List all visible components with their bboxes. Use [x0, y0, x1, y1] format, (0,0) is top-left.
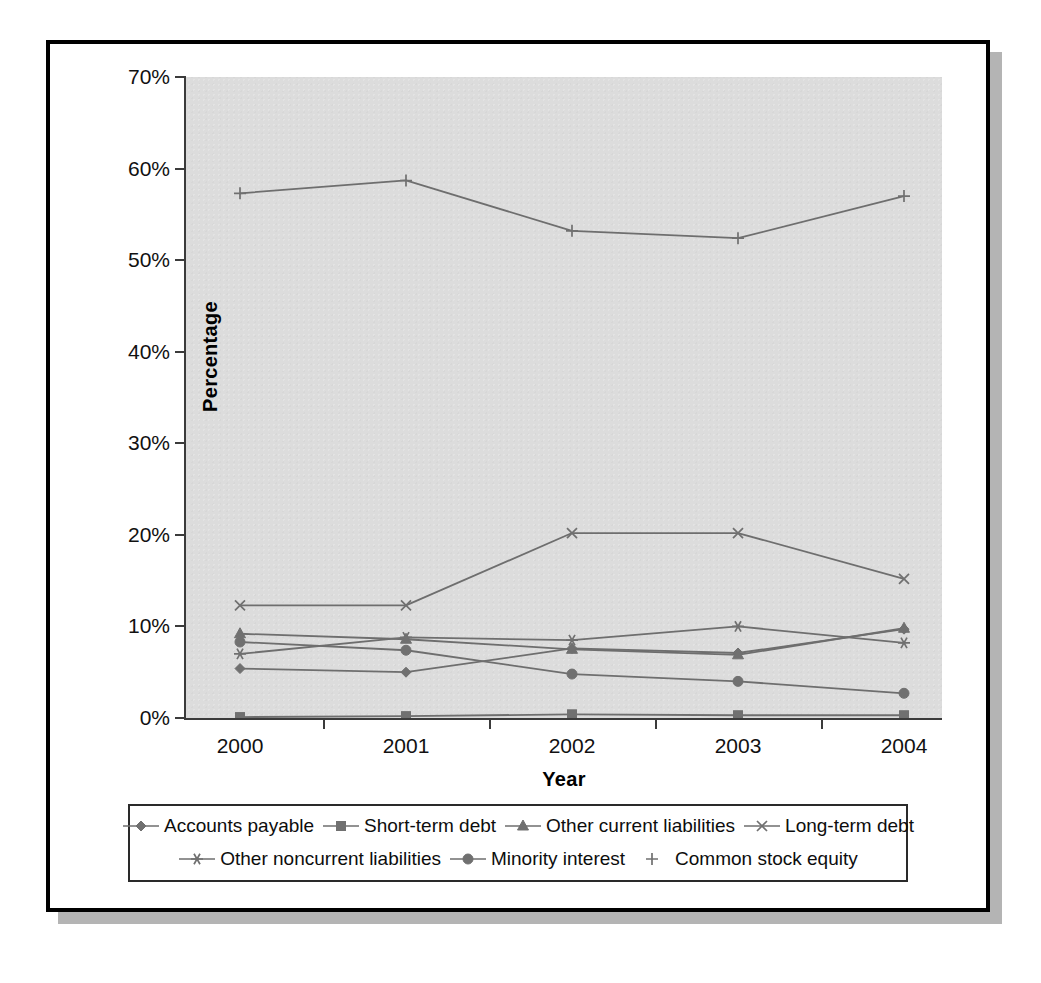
legend-item[interactable]: Long-term debt [743, 816, 914, 835]
x-axis-title: Year [186, 768, 942, 791]
data-point-square [900, 711, 909, 718]
legend-label: Other noncurrent liabilities [220, 849, 441, 868]
data-point-square [402, 712, 411, 718]
legend-marker-triangle [504, 817, 542, 835]
data-point-plus [646, 853, 658, 865]
data-point-circle [899, 688, 909, 698]
legend-row-2: Other noncurrent liabilitiesMinority int… [130, 849, 906, 868]
legend-key [633, 850, 671, 868]
plot-area: Percentage 0%10%20%30%40%50%60%70% 20002… [184, 77, 942, 720]
legend-row-1: Accounts payableShort-term debtOther cur… [130, 816, 906, 835]
y-axis-tick-label: 70% [102, 65, 186, 89]
chart-legend: Accounts payableShort-term debtOther cur… [128, 804, 908, 882]
legend-marker-circle [449, 850, 487, 868]
data-point-asterisk [191, 853, 203, 863]
y-axis-tick-label: 40% [102, 340, 186, 364]
legend-marker-square [322, 817, 360, 835]
legend-label: Short-term debt [364, 816, 496, 835]
data-point-square [236, 713, 245, 718]
data-point-circle [401, 645, 411, 655]
legend-item[interactable]: Other current liabilities [504, 816, 735, 835]
series-short-term-debt [236, 710, 909, 718]
x-axis-tick-mark [655, 718, 657, 729]
y-axis-tick-mark [175, 534, 186, 536]
legend-item[interactable]: Short-term debt [322, 816, 496, 835]
data-point-plus [400, 174, 412, 186]
legend-key [322, 817, 360, 835]
x-axis-tick-mark [821, 718, 823, 729]
data-point-diamond [401, 667, 411, 677]
series-common-stock-equity [234, 174, 910, 244]
y-axis-tick-label: 50% [102, 248, 186, 272]
figure-frame: Percentage 0%10%20%30%40%50%60%70% 20002… [46, 40, 990, 912]
legend-label: Accounts payable [164, 816, 314, 835]
data-point-plus [234, 187, 246, 199]
y-axis-tick-label: 10% [102, 614, 186, 638]
data-point-circle [463, 854, 473, 864]
data-point-x [899, 574, 909, 584]
data-point-circle [733, 676, 743, 686]
y-axis-tick-mark [175, 442, 186, 444]
data-point-plus [898, 190, 910, 202]
x-axis-tick-label: 2003 [683, 734, 793, 758]
series-canvas [186, 77, 942, 718]
data-point-diamond [235, 664, 245, 674]
y-axis-tick-label: 0% [102, 706, 186, 730]
legend-label: Long-term debt [785, 816, 914, 835]
data-point-plus [732, 232, 744, 244]
data-point-triangle [518, 820, 529, 830]
data-point-square [734, 711, 743, 718]
chart-page: Percentage 0%10%20%30%40%50%60%70% 20002… [0, 0, 1041, 983]
y-axis-tick-mark [175, 168, 186, 170]
y-axis-tick-label: 60% [102, 157, 186, 181]
data-point-plus [566, 225, 578, 237]
legend-key [122, 817, 160, 835]
legend-label: Minority interest [491, 849, 625, 868]
y-axis-tick-mark [175, 625, 186, 627]
data-point-diamond [136, 821, 146, 831]
data-point-circle [567, 669, 577, 679]
y-axis-tick-mark [175, 76, 186, 78]
data-point-asterisk [732, 621, 744, 631]
legend-marker-asterisk [178, 850, 216, 868]
x-axis-tick-mark [323, 718, 325, 729]
legend-label: Common stock equity [675, 849, 858, 868]
legend-label: Other current liabilities [546, 816, 735, 835]
legend-item[interactable]: Other noncurrent liabilities [178, 849, 441, 868]
series-long-term-debt [235, 528, 909, 610]
x-axis-tick-label: 2001 [351, 734, 461, 758]
data-point-square [568, 710, 577, 718]
x-axis-tick-label: 2004 [849, 734, 959, 758]
data-point-circle [235, 637, 245, 647]
y-axis-tick-mark [175, 259, 186, 261]
data-point-triangle [899, 622, 910, 632]
x-axis-tick-label: 2000 [185, 734, 295, 758]
y-axis-tick-mark [175, 717, 186, 719]
legend-key [504, 817, 542, 835]
legend-key [743, 817, 781, 835]
data-point-square [337, 821, 346, 830]
legend-marker-x [743, 817, 781, 835]
data-point-asterisk [898, 638, 910, 648]
legend-key [449, 850, 487, 868]
x-axis-tick-mark [489, 718, 491, 729]
legend-item[interactable]: Accounts payable [122, 816, 314, 835]
legend-item[interactable]: Common stock equity [633, 849, 858, 868]
legend-marker-diamond [122, 817, 160, 835]
data-point-asterisk [234, 649, 246, 659]
legend-marker-plus [633, 850, 671, 868]
y-axis-tick-label: 30% [102, 431, 186, 455]
y-axis-tick-mark [175, 351, 186, 353]
plot-wrapper: Percentage 0%10%20%30%40%50%60%70% 20002… [50, 44, 986, 908]
data-point-triangle [235, 628, 246, 638]
legend-key [178, 850, 216, 868]
x-axis-tick-label: 2002 [517, 734, 627, 758]
legend-item[interactable]: Minority interest [449, 849, 625, 868]
y-axis-tick-label: 20% [102, 523, 186, 547]
